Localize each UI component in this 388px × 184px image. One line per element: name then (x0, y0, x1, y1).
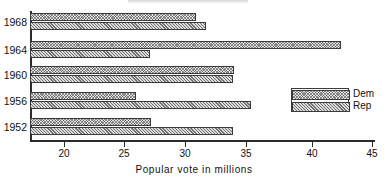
x-tick-40 (312, 142, 313, 147)
x-tick-35 (246, 142, 247, 147)
legend-label-dem: Dem (353, 88, 374, 99)
category-label-1960: 1960 (0, 69, 27, 81)
bar-1964-rep (30, 50, 150, 58)
legend-label-rep: Rep (353, 100, 371, 111)
cropped-title-remnant (128, 0, 248, 4)
legend (291, 88, 349, 112)
x-tick-20 (64, 142, 65, 147)
category-label-1956: 1956 (0, 95, 27, 107)
x-tick-30 (185, 142, 186, 147)
legend-swatch-rep (292, 102, 350, 112)
bar-1960-rep (30, 75, 233, 83)
x-tick-45 (372, 142, 373, 147)
bar-1968-rep (30, 22, 206, 30)
category-label-1964: 1964 (0, 44, 27, 56)
category-label-1952: 1952 (0, 121, 27, 133)
x-tick-label-1: 25 (118, 148, 129, 159)
x-tick-label-4: 40 (306, 148, 317, 159)
popular-vote-bar-chart: 20 25 30 35 40 45 Popular vote in millio… (0, 0, 388, 184)
x-tick-25 (124, 142, 125, 147)
legend-swatch-dem (292, 90, 350, 100)
x-axis-line (30, 140, 375, 142)
bar-1952-dem (30, 118, 151, 126)
x-axis-title: Popular vote in millions (0, 164, 388, 175)
bar-1968-dem (30, 13, 196, 21)
category-label-1968: 1968 (0, 16, 27, 28)
bar-1956-dem (30, 92, 136, 100)
x-tick-label-5: 45 (366, 148, 377, 159)
bar-1960-dem (30, 66, 234, 74)
x-tick-label-0: 20 (58, 148, 69, 159)
bar-1952-rep (30, 127, 233, 135)
bar-1964-dem (30, 41, 341, 49)
x-tick-label-3: 35 (240, 148, 251, 159)
x-tick-label-2: 30 (179, 148, 190, 159)
bar-1956-rep (30, 101, 251, 109)
